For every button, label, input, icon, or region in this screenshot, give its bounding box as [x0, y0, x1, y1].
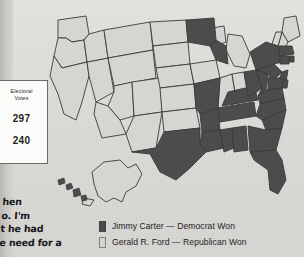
state-MN — [186, 18, 216, 46]
electoral-votes-title-line2: Votes — [0, 95, 47, 102]
state-ND — [150, 20, 188, 46]
margin-note-line-2: o. I'm — [1, 209, 64, 223]
state-RI — [289, 56, 294, 62]
electoral-votes-box: Electoral Votes 297 240 — [0, 80, 48, 164]
state-MA — [278, 46, 294, 56]
electoral-votes-republican: 240 — [0, 135, 47, 146]
state-KS — [160, 84, 196, 112]
state-MD — [268, 78, 284, 90]
legend-item-republican: Gerald R. Ford — Republican Won — [99, 234, 299, 250]
legend-swatch-democrat-icon — [99, 221, 106, 232]
state-AK — [82, 160, 142, 206]
state-AL — [232, 126, 248, 152]
electoral-votes-title-line1: Electoral — [0, 88, 47, 95]
legend-label-democrat: Jimmy Carter — Democrat Won — [112, 221, 235, 231]
electoral-votes-democrat: 297 — [0, 113, 47, 124]
state-NY — [250, 42, 282, 70]
state-FL — [250, 150, 286, 194]
margin-handwritten-note: hen o. I'm t he had e need for a — [0, 195, 65, 249]
margin-note-line-3: t he had — [0, 222, 63, 236]
state-SD — [153, 42, 190, 68]
state-GA — [248, 126, 282, 154]
election-map — [10, 2, 304, 224]
state-CT — [280, 56, 289, 64]
margin-note-line-4: e need for a — [0, 236, 62, 250]
state-CO — [132, 78, 162, 116]
map-legend: Jimmy Carter — Democrat Won Gerald R. Fo… — [99, 218, 299, 250]
legend-swatch-republican-icon — [99, 237, 106, 248]
legend-item-democrat: Jimmy Carter — Democrat Won — [99, 218, 299, 234]
margin-note-line-1: hen — [2, 195, 65, 209]
legend-label-republican: Gerald R. Ford — Republican Won — [112, 237, 247, 247]
